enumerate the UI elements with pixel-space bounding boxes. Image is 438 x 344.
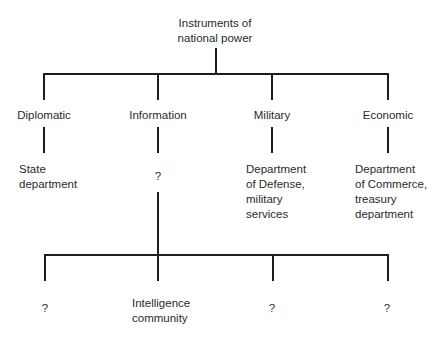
agency-line: department — [355, 207, 427, 222]
node-economic: Economic — [363, 108, 414, 123]
sub-label-line: Intelligence — [132, 296, 190, 311]
information-sub-connector — [157, 192, 159, 256]
sub-drop-2 — [157, 254, 159, 281]
node-information: Information — [129, 108, 187, 123]
agency-line: of Commerce, — [355, 177, 427, 192]
agency-line: Department — [246, 162, 306, 177]
agency-line: treasury — [355, 192, 427, 207]
agency-line: Department — [355, 162, 427, 177]
root-label-line1: Instruments of — [178, 16, 253, 31]
agency-economic: Department of Commerce, treasury departm… — [355, 162, 427, 222]
sub-drop-4 — [387, 254, 389, 281]
sub-node-2: Intelligence community — [132, 296, 190, 326]
agency-military: Department of Defense, military services — [246, 162, 306, 222]
root-connector — [215, 48, 217, 75]
stub-military — [271, 127, 273, 153]
drop-military — [271, 73, 273, 100]
sub-node-4: ? — [384, 301, 390, 316]
top-branch-line — [43, 73, 389, 75]
node-diplomatic: Diplomatic — [17, 108, 71, 123]
stub-information — [157, 127, 159, 153]
agency-line: military — [246, 192, 306, 207]
sub-label-line: community — [132, 311, 190, 326]
agency-line: State — [19, 162, 77, 177]
agency-information: ? — [155, 169, 161, 184]
stub-economic — [387, 127, 389, 153]
node-military: Military — [254, 108, 290, 123]
drop-information — [157, 73, 159, 100]
sub-node-1: ? — [42, 301, 48, 316]
drop-economic — [387, 73, 389, 100]
sub-node-3: ? — [269, 301, 275, 316]
agency-line: services — [246, 207, 306, 222]
sub-drop-3 — [272, 254, 274, 281]
stub-diplomatic — [43, 127, 45, 153]
root-node-label: Instruments of national power — [178, 16, 253, 46]
drop-diplomatic — [43, 73, 45, 100]
root-label-line2: national power — [178, 31, 253, 46]
agency-line: department — [19, 177, 77, 192]
agency-line: of Defense, — [246, 177, 306, 192]
sub-drop-1 — [44, 254, 46, 281]
agency-diplomatic: State department — [19, 162, 77, 192]
bottom-branch-line — [44, 254, 389, 256]
